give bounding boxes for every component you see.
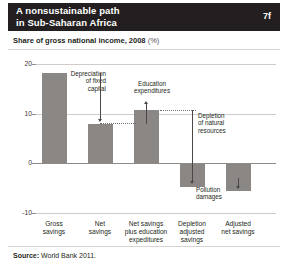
figure-7f: A nonsustainable path in Sub-Saharan Afr… [0,0,288,268]
ytick-label-10: 10 [4,110,32,117]
xlabel-gross-savings: Gross savings [28,220,80,236]
leader-line-education [146,104,147,124]
xlabel-net-savings-line-2: savings [74,228,126,236]
xlabel-das-line-2: adjusted [166,228,218,236]
ytick-stub-minus-10 [32,213,36,214]
leader-line-depreciation [100,73,101,120]
gridline-minus-10 [36,213,276,214]
xlabel-gross-savings-line-1: Gross [28,220,80,228]
annotation-pollution-line-2: damages [196,193,246,200]
xlabel-nspe-line-2: plus education [120,228,172,236]
xlabel-net-savings-line-1: Net [74,220,126,228]
footer-divider [8,246,280,247]
ytick-label-0: 0 [4,159,32,166]
annotation-education-line-1: Education [124,80,180,87]
ytick-label-20: 20 [4,60,32,67]
annotation-depletion-line-2: of natural [198,119,250,126]
ytick-label-minus-10: -10 [4,209,32,216]
dotted-connector-net-savings [100,123,136,125]
annotation-depreciation-line-3: capital [56,85,106,92]
xlabel-nspe-line-1: Net savings [120,220,172,228]
arrowhead-depreciation [98,119,102,122]
xlabel-ans-line-2: net savings [212,228,264,236]
xlabel-gross-savings-line-2: savings [28,228,80,236]
annotation-depreciation-of-fixed-capital: Depreciation of fixed capital [56,70,106,92]
annotation-depletion-line-3: resources [198,127,250,134]
dotted-connector-depletion [160,110,196,112]
ytick-stub-0 [32,163,36,164]
xlabel-nspe-line-3: expeditures [120,236,172,244]
bar-net-savings [88,124,113,163]
xlabel-das-line-1: Depletion [166,220,218,228]
source-text: World Bank 2011. [39,252,96,259]
gridline-20 [36,64,276,65]
source-label: Source: [13,252,39,259]
annotation-education-line-2: expenditures [124,87,180,94]
arrowhead-education [144,101,148,104]
xlabel-net-savings: Net savings [74,220,126,236]
source-note: Source: World Bank 2011. [13,252,96,259]
ytick-stub-20 [32,64,36,65]
annotation-education-expenditures: Education expenditures [124,80,180,95]
xlabel-depletion-adjusted-savings: Depletion adjusted savings [166,220,218,243]
annotation-depletion-line-1: Depletion [198,112,250,119]
annotation-depletion-of-natural-resources: Depletion of natural resources [198,112,250,134]
leader-line-depletion [192,110,193,182]
chart-plot-area: 20 10 0 -10 Depreciation of fixed capita… [0,0,288,268]
annotation-depreciation-line-1: Depreciation [56,70,106,77]
xlabel-ans-line-1: Adjusted [212,220,264,228]
xlabel-net-savings-plus-education: Net savings plus education expeditures [120,220,172,243]
arrowhead-depletion [190,181,194,184]
xlabel-adjusted-net-savings: Adjusted net savings [212,220,264,236]
xlabel-das-line-3: savings [166,236,218,244]
annotation-depreciation-line-2: of fixed [56,77,106,84]
ytick-stub-10 [32,114,36,115]
arrowhead-pollution [236,186,240,189]
